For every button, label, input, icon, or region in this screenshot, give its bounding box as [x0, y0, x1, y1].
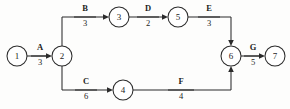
node-1-label: 1 [15, 51, 20, 61]
edge-label-f-name: F [178, 76, 183, 86]
edge-label-e-duration: 3 [207, 18, 211, 28]
network-svg: A 3 B 3 C 6 D 2 E 3 F 4 G 5 1 2 3 4 [0, 0, 290, 109]
edge-label-a-name: A [37, 42, 44, 52]
edge-label-b-name: B [82, 3, 88, 13]
node-2-label: 2 [60, 51, 65, 61]
node-7-label: 7 [273, 51, 278, 61]
edge-label-a-duration: 3 [38, 57, 42, 67]
node-4: 4 [113, 80, 133, 100]
node-1: 1 [7, 46, 27, 66]
node-7: 7 [265, 46, 285, 66]
node-6-label: 6 [229, 51, 234, 61]
node-2: 2 [52, 46, 72, 66]
arrowhead-d [162, 14, 168, 20]
edge-label-g-name: G [250, 42, 257, 52]
edge-label-e-name: E [206, 3, 212, 13]
arrowhead-f [228, 66, 234, 72]
arrowhead-b [103, 14, 109, 20]
edge-label-c-duration: 6 [84, 91, 88, 101]
node-3: 3 [109, 7, 129, 27]
network-diagram: A 3 B 3 C 6 D 2 E 3 F 4 G 5 1 2 3 4 [0, 0, 290, 109]
edge-label-d-duration: 2 [146, 18, 150, 28]
edge-label-g-duration: 5 [251, 57, 255, 67]
node-6: 6 [221, 46, 241, 66]
edge-label-d-name: D [145, 3, 151, 13]
arrowhead-e [228, 40, 234, 46]
node-4-label: 4 [121, 85, 126, 95]
edge-label-b-duration: 3 [83, 18, 87, 28]
node-5: 5 [168, 7, 188, 27]
edge-label-f-duration: 4 [179, 91, 184, 101]
node-3-label: 3 [117, 12, 122, 22]
arrowhead-c [107, 87, 113, 93]
node-5-label: 5 [176, 12, 181, 22]
edge-label-c-name: C [83, 76, 89, 86]
